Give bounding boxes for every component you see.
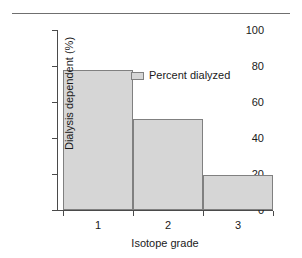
bar-isotope-grade-2 <box>133 119 203 210</box>
legend-swatch-percent-dialyzed <box>131 72 144 80</box>
x-axis-tick-label-2: 2 <box>148 219 188 231</box>
x-axis-tick-2 <box>133 211 134 216</box>
x-axis-tick-end <box>273 211 274 216</box>
y-axis-tick-20 <box>52 174 57 175</box>
y-axis-tick-60 <box>52 102 57 103</box>
x-axis-tick-label-3: 3 <box>218 219 258 231</box>
y-axis-tick-label-100: 100 <box>224 25 264 36</box>
x-axis-title: Isotope grade <box>57 237 273 249</box>
y-axis-title: Dialysis dependent (%) <box>64 9 75 179</box>
y-axis-tick-0 <box>52 210 57 211</box>
bar-chart-figure: 100 80 60 40 20 0 1 2 3 Percent dialyzed… <box>0 0 302 258</box>
plot-area: 100 80 60 40 20 0 1 2 3 Percent dialyzed… <box>57 30 272 210</box>
bar-isotope-grade-3 <box>203 175 273 210</box>
x-axis-tick-label-1: 1 <box>78 219 118 231</box>
x-axis-tick-3 <box>203 211 204 216</box>
x-axis-tick-1 <box>63 211 64 216</box>
top-horizontal-rule <box>12 13 290 14</box>
y-axis-line <box>57 30 58 211</box>
y-axis-tick-100 <box>52 30 57 31</box>
y-axis-tick-label-40: 40 <box>224 133 264 144</box>
y-axis-tick-40 <box>52 138 57 139</box>
y-axis-tick-label-60: 60 <box>224 97 264 108</box>
legend-label-percent-dialyzed: Percent dialyzed <box>149 70 230 81</box>
y-axis-tick-80 <box>52 66 57 67</box>
chart-legend: Percent dialyzed <box>131 70 230 81</box>
